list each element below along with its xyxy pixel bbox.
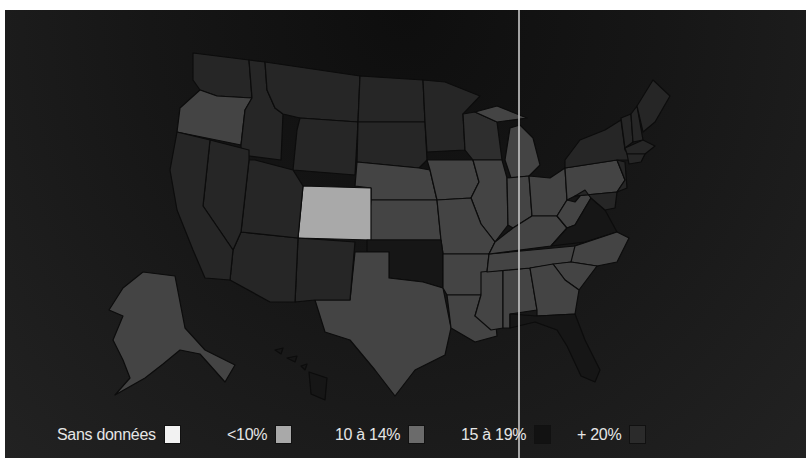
state-ut (241, 160, 303, 238)
legend-swatch-10-14 (408, 425, 425, 444)
legend-item-20plus: + 20% (577, 425, 646, 444)
legend-item-lt10: <10% (227, 425, 292, 444)
state-me (637, 80, 670, 132)
legend-swatch-20plus (629, 425, 646, 444)
state-az (230, 232, 298, 302)
legend-label: <10% (227, 426, 267, 444)
legend: Sans données <10% 10 à 14% 15 à 19% + 20… (5, 418, 806, 452)
state-nm (295, 238, 355, 302)
map-panel: Sans données <10% 10 à 14% 15 à 19% + 20… (5, 10, 806, 458)
state-ks (367, 200, 441, 240)
state-ct (627, 154, 645, 164)
legend-label: 10 à 14% (335, 426, 400, 444)
legend-swatch-15-19 (534, 425, 551, 444)
state-wy (293, 118, 358, 175)
state-sd (357, 122, 427, 168)
legend-item-15-19: 15 à 19% (461, 425, 551, 444)
legend-item-10-14: 10 à 14% (335, 425, 425, 444)
state-ak (109, 272, 235, 395)
legend-label: Sans données (57, 426, 156, 444)
legend-swatch-no-data (164, 425, 181, 444)
legend-label: + 20% (577, 426, 621, 444)
state-nd (358, 76, 425, 122)
legend-item-no-data: Sans données (57, 425, 181, 444)
legend-swatch-lt10 (275, 425, 292, 444)
scan-divider-line (518, 10, 520, 458)
state-hi (275, 348, 327, 400)
state-co (298, 186, 371, 240)
legend-label: 15 à 19% (461, 426, 526, 444)
us-choropleth-map (5, 10, 806, 458)
state-fl (510, 314, 600, 382)
